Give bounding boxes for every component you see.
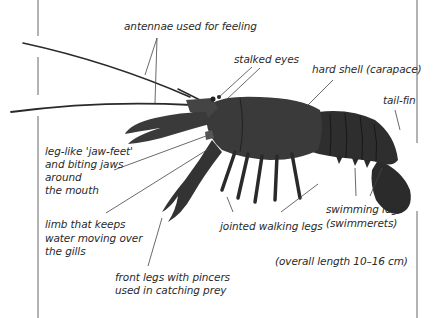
label-pincers-1: front legs with pincers — [115, 271, 230, 285]
label-gill-limb-3: the gills — [45, 245, 86, 259]
label-jaw-feet-2: and biting jaws — [45, 158, 123, 172]
label-jaw-feet-3: around — [45, 171, 82, 185]
antennae — [11, 43, 200, 112]
label-jaw-feet-4: the mouth — [45, 184, 99, 198]
label-overall-length: (overall length 10–16 cm) — [275, 255, 408, 269]
label-antennae: antennae used for feeling — [124, 20, 257, 34]
label-pincers-2: used in catching prey — [115, 284, 226, 298]
label-gill-limb-1: limb that keeps — [45, 218, 125, 232]
label-tail-fin: tail-fin — [383, 94, 416, 108]
label-gill-limb-2: water moving over — [45, 232, 142, 246]
label-stalked-eyes: stalked eyes — [234, 53, 299, 67]
label-walking-legs: jointed walking legs — [220, 220, 323, 234]
label-swimmerets-2: (swimmerets) — [326, 217, 397, 231]
label-carapace: hard shell (carapace) — [312, 63, 422, 77]
label-swimmerets-1: swimming legs — [326, 203, 403, 217]
label-jaw-feet-1: leg-like 'jaw-feet' — [45, 145, 133, 159]
